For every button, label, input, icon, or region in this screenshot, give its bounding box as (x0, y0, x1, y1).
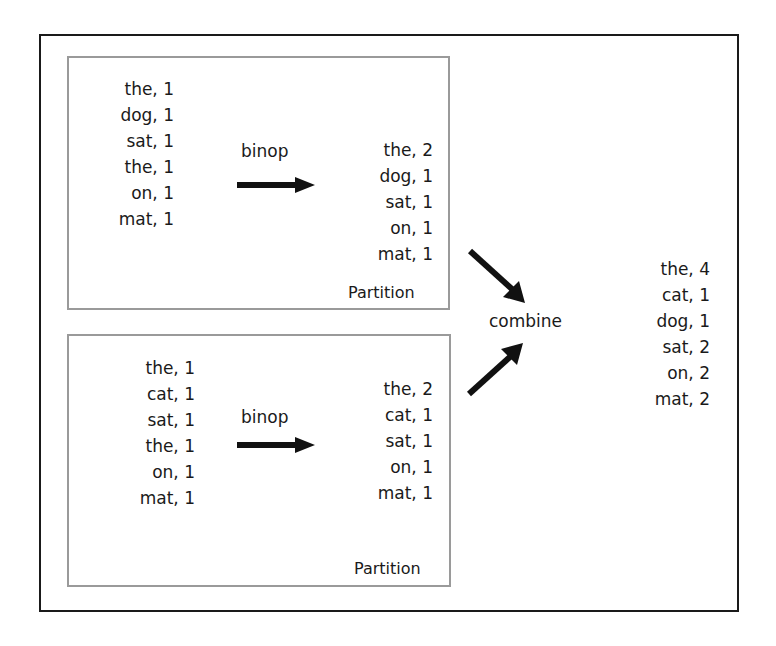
output-item: on, 1 (340, 454, 433, 480)
binop-label-1: binop (241, 141, 288, 161)
output-item: the, 2 (340, 376, 433, 402)
output-item: sat, 1 (340, 189, 433, 215)
input-item: dog, 1 (90, 102, 174, 128)
combine-label: combine (489, 311, 562, 331)
output-item: cat, 1 (340, 402, 433, 428)
output-item: sat, 1 (340, 428, 433, 454)
partition-label-2: Partition (354, 559, 421, 578)
output-item: mat, 1 (340, 241, 433, 267)
result-item: sat, 2 (630, 334, 710, 360)
result-list: the, 4 cat, 1 dog, 1 sat, 2 on, 2 mat, 2 (630, 256, 710, 412)
input-item: the, 1 (110, 355, 195, 381)
arrow-right-icon (237, 436, 317, 456)
partition-1-input-list: the, 1 dog, 1 sat, 1 the, 1 on, 1 mat, 1 (90, 76, 174, 232)
result-item: on, 2 (630, 360, 710, 386)
arrow-down-right-icon (470, 251, 525, 303)
arrow-up-right-icon (469, 343, 523, 394)
input-item: sat, 1 (90, 128, 174, 154)
output-item: the, 2 (340, 137, 433, 163)
output-item: on, 1 (340, 215, 433, 241)
partition-2-input-list: the, 1 cat, 1 sat, 1 the, 1 on, 1 mat, 1 (110, 355, 195, 511)
input-item: the, 1 (110, 433, 195, 459)
input-item: the, 1 (90, 76, 174, 102)
partition-1-output-list: the, 2 dog, 1 sat, 1 on, 1 mat, 1 (340, 137, 433, 267)
partition-label-1: Partition (348, 283, 415, 302)
input-item: on, 1 (110, 459, 195, 485)
input-item: sat, 1 (110, 407, 195, 433)
input-item: mat, 1 (90, 206, 174, 232)
result-item: the, 4 (630, 256, 710, 282)
result-item: cat, 1 (630, 282, 710, 308)
input-item: the, 1 (90, 154, 174, 180)
output-item: dog, 1 (340, 163, 433, 189)
result-item: mat, 2 (630, 386, 710, 412)
arrow-right-icon (237, 176, 317, 196)
result-item: dog, 1 (630, 308, 710, 334)
binop-label-2: binop (241, 407, 288, 427)
input-item: cat, 1 (110, 381, 195, 407)
input-item: mat, 1 (110, 485, 195, 511)
partition-2-output-list: the, 2 cat, 1 sat, 1 on, 1 mat, 1 (340, 376, 433, 506)
output-item: mat, 1 (340, 480, 433, 506)
input-item: on, 1 (90, 180, 174, 206)
